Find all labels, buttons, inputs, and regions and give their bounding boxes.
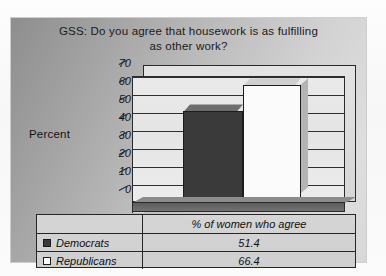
dark-square-swatch-icon: [43, 239, 51, 247]
legend-label-republicans: Republicans: [56, 255, 117, 267]
bar-republicans[interactable]: [243, 85, 301, 201]
plot-floor-front: [132, 202, 345, 212]
bar-republicans-side-face: [300, 78, 308, 194]
legend-entry-democrats[interactable]: Democrats: [37, 234, 143, 251]
y-axis-tick-group: 70 60 50 40 30 20 10 0: [85, 58, 131, 218]
table-row[interactable]: Republicans 66.4: [37, 251, 355, 269]
bar-democrats-front-face: [183, 111, 243, 201]
bar-republicans-front-face: [243, 85, 301, 201]
chart-title: GSS: Do you agree that housework is as f…: [11, 24, 366, 54]
legend-entry-republicans[interactable]: Republicans: [37, 252, 143, 269]
value-republicans: 66.4: [143, 252, 355, 269]
table-header-row: % of women who agree: [37, 215, 355, 233]
bar-democrats[interactable]: [183, 111, 243, 201]
table-header-value-cell: % of women who agree: [143, 215, 355, 233]
y-axis-label: Percent: [29, 128, 70, 140]
plot-area: [132, 65, 356, 217]
legend-data-table: % of women who agree Democrats 51.4 Repu…: [36, 214, 356, 268]
chart-title-line-1: GSS: Do you agree that housework is as f…: [59, 25, 318, 37]
screenshot-root: GSS: Do you agree that housework is as f…: [0, 0, 386, 276]
table-header-name-cell: [37, 215, 143, 233]
value-democrats: 51.4: [143, 234, 355, 251]
light-square-swatch-icon: [43, 257, 51, 265]
gridline-60: [133, 95, 344, 96]
gridline-70: [133, 77, 344, 78]
table-row[interactable]: Democrats 51.4: [37, 233, 355, 251]
chart-title-line-2: as other work?: [11, 39, 366, 54]
chart-panel: GSS: Do you agree that housework is as f…: [11, 18, 366, 262]
plot-front-wall: [132, 76, 345, 202]
legend-label-democrats: Democrats: [56, 237, 109, 249]
